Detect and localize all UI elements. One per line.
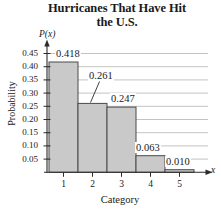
x-tick-label-2: 2	[83, 179, 103, 189]
x-axis-symbol: x	[211, 165, 215, 175]
data-label-category-4: 0.063	[135, 142, 161, 153]
hurricane-probability-chart: Hurricanes That Have Hit the U.S.	[0, 0, 221, 214]
y-axis-title: Probability	[6, 69, 17, 139]
y-tick-label-0.45: 0.45	[12, 49, 38, 58]
plot-area: P(x) x 0.45 0.40 0.35 0.30 0.25 0.20 0.1…	[0, 0, 221, 214]
leader-line-0.261	[91, 82, 100, 103]
y-axis-arrow	[44, 40, 49, 47]
x-tick-label-1: 1	[54, 179, 74, 189]
data-label-category-5: 0.010	[165, 156, 191, 167]
x-tick-marks	[64, 172, 180, 177]
x-axis-title: Category	[75, 194, 165, 205]
y-tick-label-0.05: 0.05	[12, 155, 38, 164]
bar-category-4	[136, 156, 165, 173]
y-tick-label-0.10: 0.10	[12, 141, 38, 150]
bar-category-1	[49, 62, 78, 172]
y-axis-symbol: P(x)	[39, 29, 55, 39]
data-label-category-2: 0.261	[88, 70, 114, 81]
x-tick-label-3: 3	[112, 179, 132, 189]
data-label-category-1: 0.418	[55, 48, 81, 59]
bar-category-2	[78, 103, 107, 172]
data-label-category-3: 0.247	[110, 93, 136, 104]
bar-category-3	[107, 107, 136, 172]
x-tick-label-5: 5	[170, 179, 190, 189]
x-tick-label-4: 4	[141, 179, 161, 189]
